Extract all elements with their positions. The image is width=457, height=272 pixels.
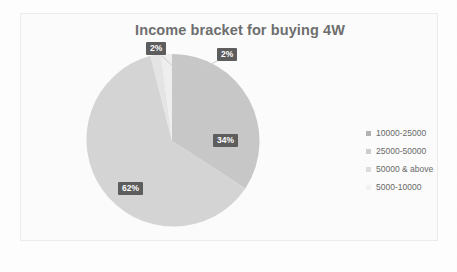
legend-swatch-icon — [366, 149, 371, 154]
legend-label: 5000-10000 — [376, 182, 421, 192]
legend-item-5000-10000[interactable]: 5000-10000 — [366, 178, 457, 196]
legend-item-25000-50000[interactable]: 25000-50000 — [366, 142, 457, 160]
pie-label-2-left: 2% — [146, 42, 166, 55]
legend-swatch-icon — [366, 167, 371, 172]
pie-label-62: 62% — [118, 182, 143, 195]
chart-legend: 10000-25000 25000-50000 50000 & above 50… — [366, 124, 457, 196]
legend-swatch-icon — [366, 131, 371, 136]
chart-frame: Income bracket for buying 4W 34% 62% 2% … — [20, 13, 438, 241]
chart-title: Income bracket for buying 4W — [21, 22, 437, 38]
legend-item-10000-25000[interactable]: 10000-25000 — [366, 124, 457, 142]
pie-label-34: 34% — [213, 134, 238, 147]
legend-label: 50000 & above — [376, 164, 433, 174]
legend-label: 10000-25000 — [376, 128, 426, 138]
legend-swatch-icon — [366, 185, 371, 190]
legend-item-50000-above[interactable]: 50000 & above — [366, 160, 457, 178]
legend-label: 25000-50000 — [376, 146, 426, 156]
pie-label-2-right: 2% — [217, 48, 237, 61]
